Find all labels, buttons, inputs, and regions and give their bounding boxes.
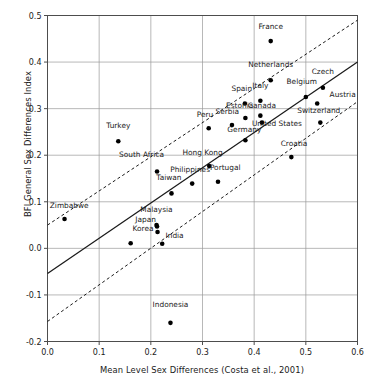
x-tick-label: 0.6 (351, 348, 364, 357)
data-point-label: Netherlands (248, 60, 293, 69)
data-point (304, 95, 309, 100)
data-point (243, 138, 248, 143)
data-point (289, 155, 294, 160)
data-point (321, 85, 326, 90)
data-point-label: Turkey (105, 121, 131, 130)
data-point-label: Czech (312, 67, 335, 76)
data-point-label: France (258, 22, 283, 31)
x-axis-title: Mean Level Sex Differences (Costa et al.… (47, 365, 357, 375)
data-point-label: Austria (330, 90, 356, 99)
data-point (160, 241, 165, 246)
y-tick-label: -0.1 (26, 291, 42, 300)
data-point-label: Malaysia (140, 205, 172, 214)
data-point-label: India (166, 231, 184, 240)
x-tick-label: 0.1 (93, 348, 106, 357)
data-point-label: Italy (252, 81, 269, 90)
data-point (155, 224, 160, 229)
x-tick-label: 0.3 (196, 348, 209, 357)
data-point (116, 139, 121, 144)
y-tick-label: -0.2 (26, 338, 42, 347)
data-point (216, 179, 221, 184)
data-point-label: Switzerland (297, 106, 340, 115)
data-point (168, 321, 173, 326)
data-point-label: Belgium (287, 77, 317, 86)
data-point-label: Germany (227, 125, 262, 134)
x-tick-label: 0.0 (41, 348, 54, 357)
data-point-label: Portugal (210, 163, 241, 172)
data-point (155, 230, 160, 235)
data-point (315, 101, 320, 106)
x-tick-label: 0.4 (248, 348, 261, 357)
data-point (318, 120, 323, 125)
data-point-label: South Africa (119, 150, 164, 159)
data-point (169, 191, 174, 196)
data-point-label: Peru (197, 110, 214, 119)
plot-canvas: 0.00.10.20.30.40.50.60.50.40.30.20.10.0-… (0, 0, 373, 381)
data-point-label: Korea (133, 224, 154, 233)
data-point-label: Taiwan (155, 173, 181, 182)
y-axis-title: BFI General Sex Differences Index (23, 14, 33, 274)
data-point-label: Spain (231, 84, 252, 93)
data-point (62, 217, 67, 222)
data-point (206, 126, 211, 131)
data-point (128, 241, 133, 246)
data-point (268, 78, 273, 83)
data-point (243, 116, 248, 121)
data-point-label: Indonesia (153, 300, 189, 309)
data-point (190, 181, 195, 186)
scatter-plot-figure: 0.00.10.20.30.40.50.60.50.40.30.20.10.0-… (0, 0, 373, 381)
data-point (258, 113, 263, 118)
data-point-label: Hong Kong (182, 148, 222, 157)
data-point (268, 39, 273, 44)
data-point-label: Croatia (281, 139, 308, 148)
x-tick-label: 0.2 (144, 348, 157, 357)
x-tick-label: 0.5 (299, 348, 312, 357)
data-point-label: Zimbabwe (50, 201, 89, 210)
data-point-label: Serbia (216, 107, 240, 116)
